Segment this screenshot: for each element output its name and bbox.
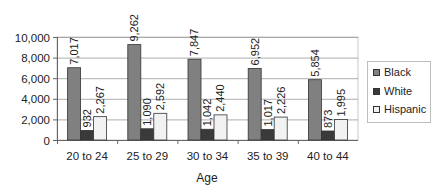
x-tick-label: 25 to 29	[127, 150, 169, 162]
legend-item-black: Black	[373, 65, 411, 79]
data-label: 2,226	[275, 87, 287, 115]
bar-black	[248, 68, 261, 140]
data-label: 7,017	[68, 37, 80, 65]
y-tick-label: 10,000	[15, 32, 50, 44]
legend-label-hispanic: Hispanic	[384, 103, 426, 115]
bar-white	[321, 131, 334, 140]
x-tick-label: 40 to 44	[307, 150, 349, 162]
bar-black	[308, 80, 321, 140]
bar-hispanic	[274, 117, 287, 140]
data-label: 873	[322, 110, 334, 128]
bar-black	[128, 45, 141, 140]
bar-white	[201, 129, 214, 140]
data-label: 6,952	[249, 38, 261, 66]
y-tick-label: 6,000	[21, 73, 50, 85]
data-label: 7,847	[189, 29, 201, 57]
x-tick-label: 35 to 39	[247, 150, 289, 162]
bar-white	[141, 129, 154, 140]
legend: Black White Hispanic	[367, 61, 431, 123]
legend-label-black: Black	[384, 66, 411, 78]
data-label: 2,267	[94, 86, 106, 114]
data-label: 1,995	[335, 89, 347, 117]
legend-item-hispanic: Hispanic	[373, 102, 426, 116]
bar-white	[261, 130, 274, 140]
bar-hispanic	[214, 115, 227, 140]
y-tick-label: 8,000	[21, 52, 50, 64]
bar-hispanic	[154, 113, 167, 140]
bar-black	[68, 68, 81, 140]
bar-white	[81, 130, 94, 140]
legend-swatch-white	[373, 88, 380, 95]
data-label: 2,440	[215, 84, 227, 112]
plot-area: 02,0004,0006,0008,00010,0007,0179322,267…	[15, 14, 358, 162]
data-label: 1,017	[262, 99, 274, 127]
bar-black	[188, 59, 201, 140]
data-label: 932	[81, 109, 93, 127]
y-tick-label: 4,000	[21, 93, 50, 105]
data-label: 9,262	[128, 14, 140, 42]
x-tick-label: 30 to 34	[187, 150, 229, 162]
y-tick-label: 0	[44, 135, 50, 147]
x-axis-title: Age	[196, 171, 218, 185]
data-label: 1,090	[141, 98, 153, 126]
data-label: 1,042	[202, 99, 214, 127]
legend-swatch-hispanic	[373, 106, 380, 113]
bar-hispanic	[334, 119, 347, 140]
data-label: 2,592	[154, 83, 166, 111]
data-label: 5,854	[309, 49, 321, 77]
legend-swatch-black	[373, 69, 380, 76]
bar-hispanic	[94, 117, 107, 140]
x-tick-label: 20 to 24	[66, 150, 108, 162]
legend-item-white: White	[373, 84, 412, 98]
legend-label-white: White	[384, 85, 412, 97]
y-tick-label: 2,000	[21, 114, 50, 126]
